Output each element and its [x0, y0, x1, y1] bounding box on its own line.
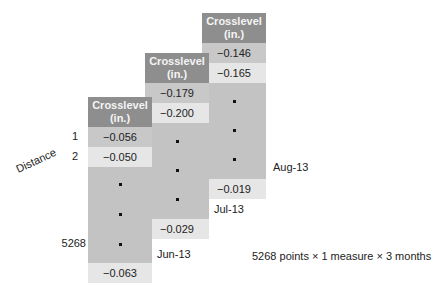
ellipsis-block	[88, 167, 152, 263]
ellipsis-dot	[176, 169, 179, 172]
ellipsis-dot	[176, 140, 179, 143]
cell-second: −0.050	[88, 147, 152, 167]
header-title: Crosslevel	[145, 55, 209, 68]
table-aug-13: Crosslevel (in.) −0.146 −0.165 −0.019	[202, 13, 266, 199]
ellipsis-block	[145, 123, 209, 219]
row-label-last: 5268	[56, 237, 86, 249]
ellipsis-dot	[233, 129, 236, 132]
cell-first: −0.056	[88, 127, 152, 147]
ellipsis-dot	[119, 213, 122, 216]
cell-last: −0.019	[202, 179, 266, 199]
cell-last: −0.063	[88, 263, 152, 283]
cell-first: −0.146	[202, 43, 266, 63]
header-unit: (in.)	[88, 112, 152, 125]
header-title: Crosslevel	[202, 15, 266, 28]
header-title: Crosslevel	[88, 99, 152, 112]
table-jul-13: Crosslevel (in.) −0.179 −0.200 −0.029	[145, 53, 209, 239]
caption: 5268 points × 1 measure × 3 months	[252, 250, 431, 262]
ellipsis-dot	[119, 243, 122, 246]
ellipsis-block	[202, 83, 266, 179]
ellipsis-dot	[233, 158, 236, 161]
table-jun-13: Crosslevel (in.) −0.056 −0.050 −0.063	[88, 97, 152, 283]
month-label-jul: Jul-13	[214, 203, 244, 215]
ellipsis-dot	[119, 183, 122, 186]
column-header: Crosslevel (in.)	[202, 13, 266, 43]
ellipsis-dot	[233, 100, 236, 103]
ellipsis-dot	[176, 198, 179, 201]
column-header: Crosslevel (in.)	[88, 97, 152, 127]
header-unit: (in.)	[145, 68, 209, 81]
cell-first: −0.179	[145, 83, 209, 103]
month-label-jun: Jun-13	[157, 248, 191, 260]
month-label-aug: Aug-13	[273, 161, 308, 173]
column-header: Crosslevel (in.)	[145, 53, 209, 83]
cell-second: −0.165	[202, 63, 266, 83]
cell-last: −0.029	[145, 219, 209, 239]
row-label-1: 1	[48, 130, 78, 142]
header-unit: (in.)	[202, 28, 266, 41]
cell-second: −0.200	[145, 103, 209, 123]
